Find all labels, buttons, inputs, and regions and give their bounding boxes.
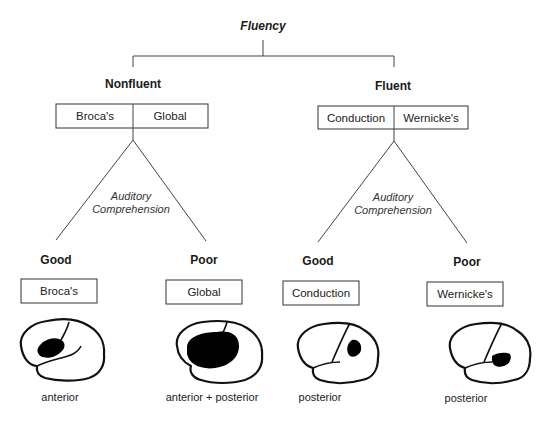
outcome-poor-label-right: Poor <box>453 255 481 269</box>
outcome-good-label-right: Good <box>302 254 333 268</box>
brain-icon-anterior <box>21 319 104 380</box>
outcome-good-label: Good <box>40 253 71 267</box>
brain-icon-anterior-posterior <box>177 321 262 383</box>
nonfluent-types-box: Broca's Global <box>56 104 208 128</box>
branch-label-nonfluent: Nonfluent <box>105 77 161 91</box>
fluent-types-box: Conduction Wernicke's <box>318 106 468 129</box>
aphasia-classification-diagram: Fluency Nonfluent Broca's Global Auditor… <box>0 0 552 422</box>
outcome-type-global: Global <box>187 286 220 298</box>
type-wernickes: Wernicke's <box>403 112 459 124</box>
diagram-title: Fluency <box>240 19 287 33</box>
lesion-site-caption: posterior <box>299 391 342 403</box>
fluent-split-lines <box>318 129 467 243</box>
type-conduction: Conduction <box>327 112 385 124</box>
brain-icon-posterior-wernicke <box>450 323 531 383</box>
outcome-type-brocas: Broca's <box>40 285 78 297</box>
split-label-auditory-right: Auditory <box>372 191 415 203</box>
split-label-auditory: Auditory <box>110 190 153 202</box>
outcome-type-wernickes: Wernicke's <box>437 288 493 300</box>
split-label-comprehension: Comprehension <box>92 203 170 215</box>
nonfluent-split-lines <box>56 128 206 241</box>
branch-label-fluent: Fluent <box>375 79 411 93</box>
outcome-poor-label: Poor <box>190 253 218 267</box>
split-label-comprehension-right: Comprehension <box>354 204 432 216</box>
fluency-connector <box>133 40 394 67</box>
lesion-site-caption: anterior + posterior <box>166 391 259 403</box>
brain-icon-posterior <box>298 323 379 383</box>
lesion-site-caption: anterior <box>41 391 79 403</box>
lesion-site-caption: posterior <box>445 392 488 404</box>
type-global: Global <box>153 110 186 122</box>
outcome-type-conduction: Conduction <box>292 287 350 299</box>
type-brocas: Broca's <box>76 110 114 122</box>
